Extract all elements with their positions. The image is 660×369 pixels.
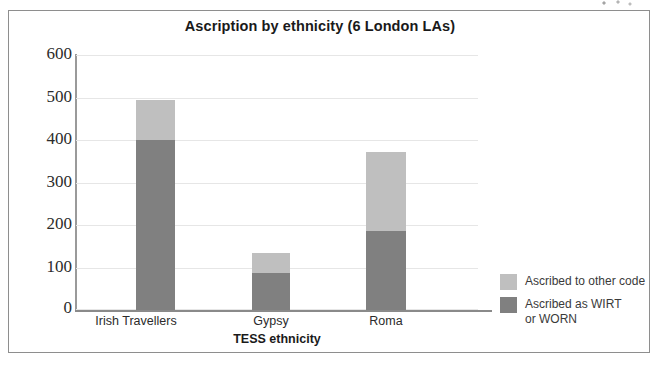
x-tick-label-irish-travellers: Irish Travellers <box>76 314 196 328</box>
legend-label-wirt-worn: Ascribed as WIRT or WORN <box>525 297 621 327</box>
bar-segment-wirt-worn <box>252 273 290 310</box>
bar-segment-other-code <box>366 152 406 232</box>
y-tick-label-200: 200 <box>14 214 72 234</box>
legend-swatch-wirt-worn <box>500 297 517 313</box>
bar-segment-wirt-worn <box>366 231 406 310</box>
x-axis-line <box>75 310 492 312</box>
bar-gypsy[interactable] <box>252 253 290 310</box>
x-tick-label-gypsy: Gypsy <box>211 314 331 328</box>
scan-artifact <box>596 0 650 7</box>
y-tick-label-0: 0 <box>14 298 72 318</box>
bar-roma[interactable] <box>366 152 406 311</box>
bar-segment-other-code <box>252 253 290 273</box>
legend-label-other-code: Ascribed to other code <box>525 274 645 289</box>
plot-area <box>76 55 478 310</box>
gridline-600 <box>76 55 478 56</box>
y-tick-label-300: 300 <box>14 172 72 192</box>
legend-item-wirt-worn[interactable]: Ascribed as WIRT or WORN <box>500 297 621 327</box>
gridline-500 <box>76 98 478 99</box>
y-tick-label-600: 600 <box>14 44 72 64</box>
x-tick-label-roma: Roma <box>326 314 446 328</box>
bar-segment-other-code <box>136 100 175 140</box>
bar-segment-wirt-worn <box>136 140 175 310</box>
y-tick-label-100: 100 <box>14 257 72 277</box>
x-axis-title: TESS ethnicity <box>76 332 478 346</box>
bar-irish-travellers[interactable] <box>136 100 175 310</box>
chart-title: Ascription by ethnicity (6 London LAs) <box>70 18 570 34</box>
legend-swatch-other-code <box>500 274 517 290</box>
legend-item-other-code[interactable]: Ascribed to other code <box>500 274 645 290</box>
y-tick-label-500: 500 <box>14 87 72 107</box>
y-tick-label-400: 400 <box>14 129 72 149</box>
